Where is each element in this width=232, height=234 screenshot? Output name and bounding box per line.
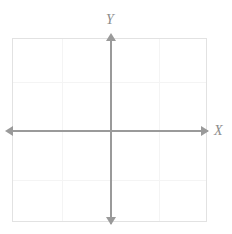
arrow-left-icon <box>5 126 13 136</box>
arrow-right-icon <box>201 126 209 136</box>
y-axis-label: Y <box>106 13 114 27</box>
coordinate-plane-figure: Y X <box>0 0 232 234</box>
arrow-down-icon <box>106 217 116 225</box>
y-axis-line <box>110 38 112 224</box>
x-axis-label: X <box>214 124 223 138</box>
arrow-up-icon <box>106 33 116 41</box>
